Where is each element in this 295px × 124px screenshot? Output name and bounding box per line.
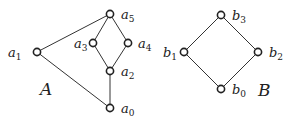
node-label-a5: a5 (121, 7, 135, 24)
edge-a3-a2 (93, 43, 110, 71)
nodes-layer (33, 10, 261, 111)
node-label-b0: b0 (232, 82, 246, 99)
node-label-a4: a4 (138, 36, 152, 53)
node-b0 (217, 85, 224, 92)
node-a2 (106, 67, 113, 74)
node-b3 (217, 11, 224, 18)
node-b1 (180, 48, 187, 55)
node-a1 (33, 48, 40, 55)
node-subscript: 2 (277, 52, 283, 62)
node-subscript: 0 (129, 108, 135, 118)
node-a3 (89, 39, 96, 46)
node-label-a0: a0 (121, 101, 135, 118)
labels-layer: a0a1a2a3a4a5Ab0b1b2b3B (8, 7, 283, 118)
edge-b1-b0 (184, 52, 221, 89)
node-label-b2: b2 (269, 45, 283, 62)
node-a5 (106, 10, 113, 17)
node-label-b1: b1 (163, 45, 177, 62)
diagram-label-A: A (38, 79, 52, 99)
node-label-b3: b3 (232, 8, 246, 25)
diagram-label-B: B (257, 80, 271, 100)
node-label-a3: a3 (74, 36, 88, 53)
lattice-diagrams: a0a1a2a3a4a5Ab0b1b2b3B (0, 0, 295, 124)
node-subscript: 3 (82, 43, 88, 53)
node-a0 (106, 104, 113, 111)
node-a4 (124, 39, 131, 46)
node-subscript: 5 (129, 14, 135, 24)
node-subscript: 1 (171, 52, 177, 62)
node-subscript: 1 (16, 52, 22, 62)
edges-layer (37, 14, 258, 108)
node-subscript: 4 (146, 43, 152, 53)
node-b2 (254, 48, 261, 55)
node-label-a1: a1 (8, 45, 22, 62)
node-subscript: 3 (240, 15, 246, 25)
node-label-a2: a2 (121, 64, 135, 81)
node-subscript: 2 (129, 71, 135, 81)
edge-b3-b1 (184, 15, 221, 52)
node-subscript: 0 (240, 89, 246, 99)
